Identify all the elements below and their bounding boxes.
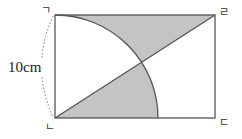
dimension-label: 10cm — [8, 59, 42, 75]
shaded-region-bottom — [55, 62, 158, 118]
geometry-diagram: 10cm ㄱ ㄹ ㄴ ㄷ — [0, 0, 242, 139]
shaded-region-top — [55, 15, 215, 62]
corner-label-top-left: ㄱ — [41, 4, 51, 17]
corner-label-top-right: ㄹ — [219, 6, 229, 19]
corner-label-bottom-right: ㄷ — [219, 116, 229, 129]
corner-label-bottom-left: ㄴ — [45, 121, 55, 134]
